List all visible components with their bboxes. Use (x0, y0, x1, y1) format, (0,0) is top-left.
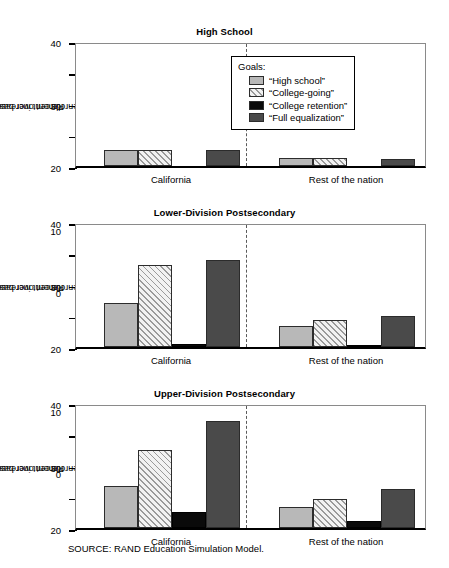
source-note: SOURCE: RAND Education Simulation Model. (68, 543, 264, 554)
group-divider (246, 225, 247, 347)
panel-title: Upper-Division Postsecondary (0, 388, 449, 399)
bar-full-equalization (381, 316, 415, 347)
light-gray-swatch (249, 76, 264, 85)
legend-title: Goals: (238, 61, 347, 72)
y-axis-label: Percent increase inenrollment over base … (8, 405, 42, 530)
y-axis-label: Percent increase inenrollment over base … (8, 224, 42, 349)
legend-item-label: “Full equalization” (269, 112, 344, 123)
bar-college-going (138, 450, 172, 528)
group-divider (246, 406, 247, 528)
bar-high-school (279, 158, 313, 166)
bar-college-going (138, 150, 172, 166)
bar-college-retention (172, 512, 206, 528)
dark-gray-swatch (249, 113, 264, 122)
y-tick: 0 (69, 530, 75, 532)
bar-full-equalization (381, 159, 415, 166)
group-label: California (151, 355, 191, 366)
plot-area (75, 405, 426, 530)
y-tick-label: 20 (50, 525, 61, 536)
legend-item-full_equalization: “Full equalization” (249, 112, 347, 125)
y-tick-label: 20 (50, 163, 61, 174)
bar-college-going (313, 499, 347, 528)
bar-high-school (104, 486, 138, 529)
panel-title: High School (0, 26, 449, 37)
figure-root: High School Percent increase inenrollmen… (0, 0, 449, 568)
bar-college-retention (347, 345, 381, 347)
plot-area: Goals:“High school”“College-going”“Colle… (75, 43, 426, 168)
bar-full-equalization (206, 260, 240, 347)
black-swatch (249, 101, 264, 110)
legend-item-label: “College-going” (269, 87, 334, 98)
bar-high-school (279, 326, 313, 347)
y-axis-label: Percent increase inenrollment over base … (8, 43, 42, 168)
hatched-swatch (249, 88, 264, 97)
bar-high-school (104, 150, 138, 166)
bar-college-going (313, 320, 347, 348)
legend-item-high_school: “High school” (249, 74, 347, 87)
legend-item-label: “High school” (269, 75, 325, 86)
bar-full-equalization (381, 489, 415, 528)
y-tick-label: 40 (50, 38, 61, 49)
bar-high-school (104, 303, 138, 347)
bar-high-school (279, 507, 313, 528)
bar-college-retention (347, 521, 381, 528)
bar-full-equalization (206, 150, 240, 166)
plot-area (75, 224, 426, 349)
bar-full-equalization (206, 421, 240, 528)
y-tick-label: 40 (50, 219, 61, 230)
group-label: Rest of the nation (309, 536, 383, 547)
group-label: California (151, 174, 191, 185)
y-tick-label: 30 (50, 281, 61, 292)
y-tick: 0 (69, 349, 75, 351)
group-label: Rest of the nation (309, 355, 383, 366)
bar-college-going (313, 158, 347, 166)
y-tick: 0 (69, 168, 75, 170)
panel-title: Lower-Division Postsecondary (0, 207, 449, 218)
legend-item-college_going: “College-going” (249, 87, 347, 100)
group-label: Rest of the nation (309, 174, 383, 185)
y-tick-label: 30 (50, 462, 61, 473)
y-tick-label: 20 (50, 344, 61, 355)
legend-item-label: “College retention” (269, 100, 347, 111)
bar-college-retention (172, 344, 206, 347)
y-tick-label: 40 (50, 400, 61, 411)
bar-college-going (138, 265, 172, 347)
y-tick-label: 30 (50, 100, 61, 111)
legend: Goals:“High school”“College-going”“Colle… (231, 56, 355, 130)
legend-item-college_retention: “College retention” (249, 99, 347, 112)
